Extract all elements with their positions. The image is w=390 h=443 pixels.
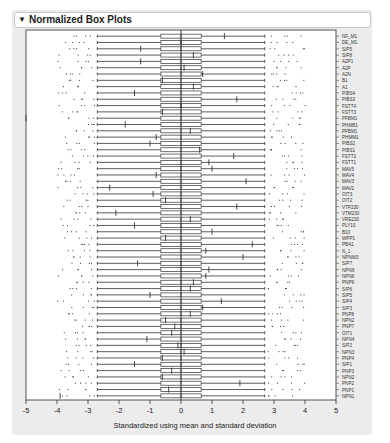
category-label: MAV4 [342, 173, 355, 178]
category-label: VRE230 [342, 217, 360, 222]
category-label: PNP3 [342, 369, 354, 374]
category-label: S/P7 [342, 261, 352, 266]
category-label: PHMM1 [342, 135, 359, 140]
x-tick-label: 1 [210, 406, 214, 415]
category-label: S/P4 [342, 299, 352, 304]
category-label: PNP4 [342, 356, 354, 361]
box-plot-chart: NF_M1DE_M1S/P5S/P8A2P1A2PA2NB1A1P/BS4P/B… [0, 0, 390, 443]
category-label: DE_M1 [342, 40, 358, 45]
category-label: NPN3 [342, 350, 355, 355]
category-label: PNP1 [342, 388, 354, 393]
category-label: A2P1 [342, 59, 354, 64]
category-label: NPNW3 [342, 255, 359, 260]
x-tick-label: -4 [54, 406, 61, 415]
category-label: S/P6 [342, 287, 352, 292]
category-label: S/P2 [342, 343, 352, 348]
x-tick-label: -3 [85, 406, 92, 415]
category-label: PNP8 [342, 312, 354, 317]
category-label: P/BS4 [342, 91, 355, 96]
category-label: FSTT2 [342, 154, 356, 159]
category-label: FSTT1 [342, 160, 356, 165]
category-label: P/BS1 [342, 148, 355, 153]
category-label: S/P1 [342, 362, 352, 367]
category-label: PNP9 [342, 280, 354, 285]
category-label: S/P8 [342, 53, 352, 58]
category-label: VTP230 [342, 205, 359, 210]
category-label: FSTT3 [342, 110, 356, 115]
x-tick-label: -1 [147, 406, 154, 415]
category-label: PNP2 [342, 381, 354, 386]
category-label: P/BS2 [342, 141, 355, 146]
x-tick-label: 5 [334, 406, 338, 415]
category-label: S/P5 [342, 47, 352, 52]
category-label: S/P5 [342, 293, 352, 298]
category-label: P/BS3 [342, 97, 355, 102]
category-label: B1 [342, 78, 348, 83]
category-label: WPP1 [342, 236, 355, 241]
category-label: NPN8 [342, 274, 355, 279]
category-label: MAV5 [342, 167, 355, 172]
category-label: MAV3 [342, 179, 355, 184]
category-label: OIT3 [342, 192, 353, 197]
category-label: PFBM1 [342, 116, 358, 121]
category-label: PHMB1 [342, 123, 358, 128]
category-label: S/P3 [342, 306, 352, 311]
category-label: NPN2 [342, 318, 355, 323]
category-label: VTM230 [342, 211, 360, 216]
x-tick-label: 4 [303, 406, 307, 415]
category-label: PBA1 [342, 242, 354, 247]
category-label: MAV2 [342, 186, 355, 191]
x-tick-label: 0 [179, 406, 183, 415]
category-label: OIT2 [342, 198, 353, 203]
x-tick-label: -5 [23, 406, 30, 415]
category-label: A2P [342, 66, 351, 71]
category-label: NPN9 [342, 268, 355, 273]
category-label: NPN2 [342, 375, 355, 380]
category-label: PFBM1 [342, 129, 358, 134]
category-label: B10 [342, 230, 351, 235]
x-tick-label: -2 [116, 406, 123, 415]
category-label: PLY10 [342, 223, 356, 228]
x-tick-label: 3 [272, 406, 276, 415]
category-label: NPN1 [342, 394, 355, 399]
category-label: NPN4 [342, 337, 355, 342]
category-label: N_1 [342, 249, 351, 254]
category-label: NF_M1 [342, 34, 358, 39]
category-label: OIT1 [342, 331, 353, 336]
category-label: PNP7 [342, 324, 354, 329]
category-label: FSTT4 [342, 104, 356, 109]
x-axis-title: Standardized using mean and standard dev… [0, 421, 390, 430]
category-label: A2N [342, 72, 351, 77]
x-tick-label: 2 [241, 406, 245, 415]
category-label: A1 [342, 85, 348, 90]
